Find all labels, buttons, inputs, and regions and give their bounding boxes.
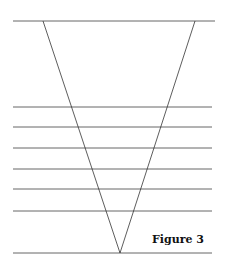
v-right-side <box>120 21 195 253</box>
figure-caption: Figure 3 <box>152 233 204 246</box>
horizontal-lines <box>13 21 215 253</box>
figure-diagram: Figure 3 <box>0 0 225 274</box>
v-left-side <box>43 21 120 253</box>
